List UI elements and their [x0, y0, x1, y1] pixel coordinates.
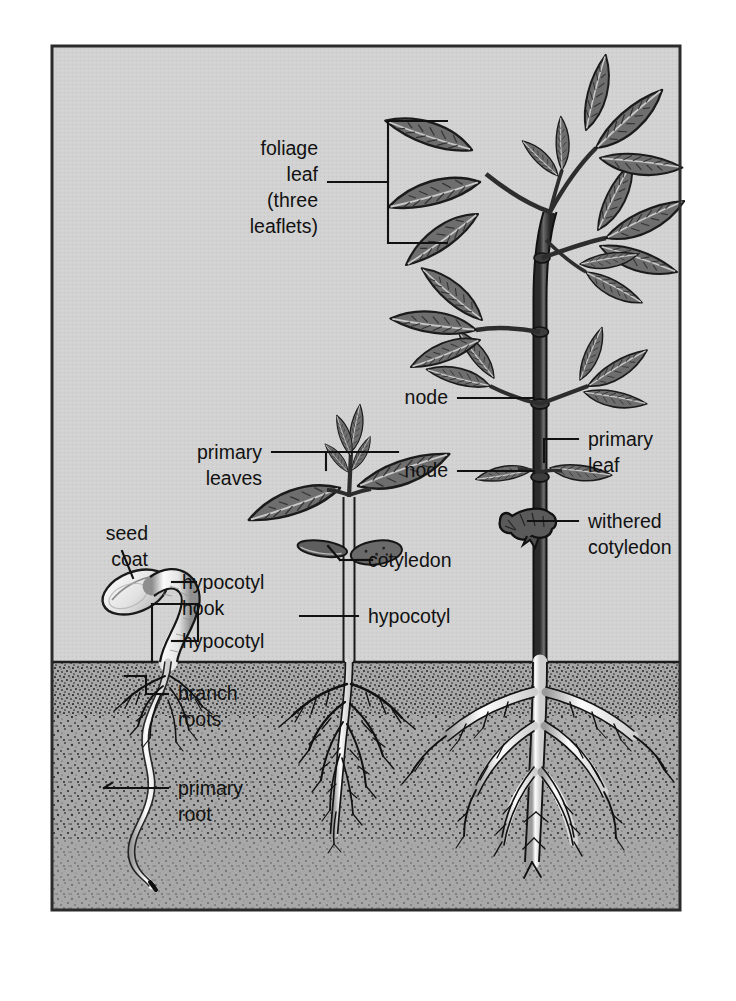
label-line: (three: [267, 189, 318, 211]
label-line: leaves: [206, 467, 263, 489]
diagram-canvas: foliage leaf (three leaflets) node node …: [0, 0, 736, 1001]
label-line: primary: [588, 428, 653, 450]
label-cotyledon: cotyledon: [368, 549, 451, 571]
label-line: hypocotyl: [368, 605, 450, 627]
label-line: cotyledon: [368, 549, 451, 571]
label-hypocotyl-seedling: hypocotyl: [368, 605, 450, 627]
label-line: leaf: [588, 454, 620, 476]
label-line: node: [405, 386, 448, 408]
label-node-lower: node: [405, 459, 448, 481]
label-line: hypocotyl: [182, 630, 264, 652]
label-line: branch: [178, 682, 238, 704]
label-line: primary: [197, 441, 262, 463]
label-line: root: [178, 803, 212, 825]
label-node-upper: node: [405, 386, 448, 408]
label-line: hypocotyl: [182, 571, 264, 593]
botanical-diagram-figure: foliage leaf (three leaflets) node node …: [0, 0, 736, 1001]
label-line: hook: [182, 597, 225, 619]
label-line: cotyledon: [588, 536, 671, 558]
label-line: node: [405, 459, 448, 481]
label-line: coat: [111, 548, 148, 570]
illustration-frame: foliage leaf (three leaflets) node node …: [52, 46, 690, 910]
label-line: leaflets): [250, 215, 318, 237]
label-line: withered: [587, 510, 662, 532]
label-line: foliage: [261, 137, 318, 159]
label-line: leaf: [287, 163, 319, 185]
label-line: roots: [178, 708, 222, 730]
label-hypocotyl-seed: hypocotyl: [182, 630, 264, 652]
label-line: primary: [178, 777, 243, 799]
label-line: seed: [106, 522, 148, 544]
